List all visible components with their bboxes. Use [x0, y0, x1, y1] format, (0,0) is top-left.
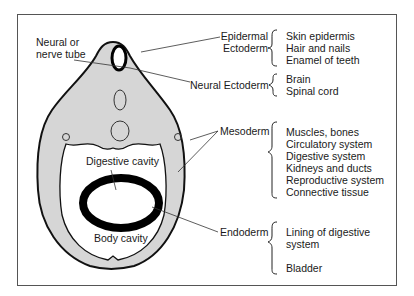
derivative-item: Muscles, bones — [286, 126, 384, 138]
derivative-item: Enamel of teeth — [286, 54, 360, 66]
label-neural-ectoderm: Neural Ectoderm — [190, 79, 269, 91]
list-endoderm-derivatives: Lining of digestive system Bladder — [286, 226, 370, 274]
derivative-item: Circulatory system — [286, 138, 384, 150]
label-neural-tube: Neural or nerve tube — [36, 36, 86, 60]
derivative-item: Kidneys and ducts — [286, 162, 384, 174]
label-neural-tube-line1: Neural or — [36, 36, 86, 48]
derivative-item: Digestive system — [286, 150, 384, 162]
brace-endoderm — [268, 222, 277, 274]
derivative-item: Reproductive system — [286, 174, 384, 186]
label-epidermal-ectoderm: Epidermal Ectoderm — [208, 30, 268, 54]
derivative-item: Skin epidermis — [286, 30, 360, 42]
label-endoderm: Endoderm — [220, 226, 268, 238]
endoderm-ring — [83, 178, 159, 228]
derivative-item: Connective tissue — [286, 186, 384, 198]
list-epidermal-derivatives: Skin epidermis Hair and nails Enamel of … — [286, 30, 360, 66]
label-digestive-cavity: Digestive cavity — [86, 155, 159, 167]
label-epidermal-line1: Epidermal — [208, 30, 268, 42]
derivative-item: Hair and nails — [286, 42, 360, 54]
list-neural-derivatives: Brain Spinal cord — [286, 73, 339, 97]
derivative-item: Bladder — [286, 262, 370, 274]
label-neural-tube-line2: nerve tube — [36, 48, 86, 60]
derivative-item: Lining of digestive — [286, 226, 370, 238]
list-mesoderm-derivatives: Muscles, bones Circulatory system Digest… — [286, 126, 384, 198]
derivative-item: Brain — [286, 73, 339, 85]
derivative-item: Spinal cord — [286, 85, 339, 97]
brace-neural — [269, 74, 277, 96]
label-body-cavity: Body cavity — [94, 232, 148, 244]
label-epidermal-line2: Ectoderm — [208, 42, 268, 54]
brace-epidermal — [268, 30, 277, 66]
derivative-item: system — [286, 238, 370, 250]
derivative-spacer — [286, 250, 370, 262]
label-mesoderm: Mesoderm — [220, 125, 270, 137]
